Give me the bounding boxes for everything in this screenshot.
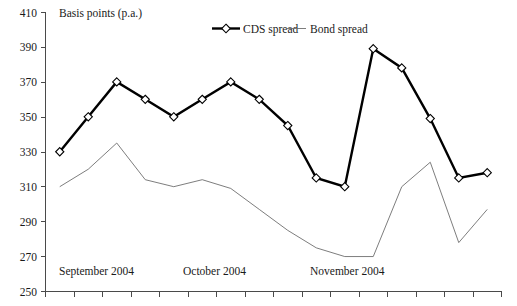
chart-page: 410 390 370 350 330 310 290 270 250 Basi… xyxy=(0,0,517,306)
y-tick-label-290: 290 xyxy=(20,216,38,228)
y-tick-label-370: 370 xyxy=(20,76,38,88)
y-tick-label-410: 410 xyxy=(20,7,38,19)
legend-marker-diamond-icon xyxy=(222,24,231,33)
data-point-marker xyxy=(455,174,463,182)
series-line-bond-spread xyxy=(60,143,488,257)
y-tick-label-310: 310 xyxy=(20,181,38,193)
y-tick-label-250: 250 xyxy=(20,286,38,298)
x-label-november: November 2004 xyxy=(310,265,385,277)
data-point-marker xyxy=(483,169,491,177)
legend-label-cds: CDS spread xyxy=(243,23,299,36)
y-tick-label-330: 330 xyxy=(20,146,38,158)
y-tick-label-270: 270 xyxy=(20,251,38,263)
x-tick-marks xyxy=(46,292,502,297)
legend-label-bond: Bond spread xyxy=(310,23,368,36)
y-axis-title: Basis points (p.a.) xyxy=(59,7,142,20)
data-point-marker xyxy=(341,183,349,191)
y-tick-marks xyxy=(41,13,46,292)
legend: CDS spread Bond spread xyxy=(212,23,368,36)
x-label-october: October 2004 xyxy=(183,265,246,277)
y-tick-label-350: 350 xyxy=(20,111,38,123)
series-line-cds-spread xyxy=(60,49,488,187)
x-label-september: September 2004 xyxy=(59,265,134,278)
y-tick-label-390: 390 xyxy=(20,41,38,53)
series-markers-cds-spread xyxy=(56,45,492,191)
line-chart: 410 390 370 350 330 310 290 270 250 Basi… xyxy=(0,0,517,306)
